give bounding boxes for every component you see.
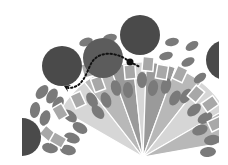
rect-marker xyxy=(142,57,154,72)
oval-figure xyxy=(29,101,42,118)
circle-top xyxy=(120,15,160,55)
circle-middle xyxy=(83,38,123,78)
circle-left xyxy=(42,46,82,86)
diagram-canvas xyxy=(0,0,228,165)
oval-figure xyxy=(137,72,147,88)
oval-figure xyxy=(200,146,217,157)
oval-figure xyxy=(164,37,179,47)
rect-marker xyxy=(155,64,168,80)
oval-figure xyxy=(38,109,53,127)
start-dot-icon xyxy=(127,59,134,66)
circle-right xyxy=(206,40,228,80)
oval-figure xyxy=(184,39,200,53)
circle-bottom-left xyxy=(3,118,41,156)
oval-figure xyxy=(158,50,174,61)
rect-marker xyxy=(124,65,136,80)
